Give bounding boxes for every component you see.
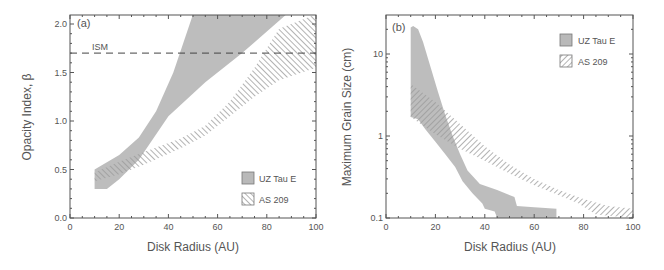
panel-b-legend: UZ Tau E AS 209	[560, 34, 615, 67]
x-tick-label: 80	[262, 222, 272, 232]
x-tick-label: 40	[163, 222, 173, 232]
legend-label-as-209: AS 209	[578, 57, 608, 67]
x-tick-label: 80	[579, 222, 589, 232]
x-tick-label: 40	[480, 222, 490, 232]
y-tick-label: 0.1	[370, 213, 383, 223]
panel-a-opacity-index: ISM 0204060801000.00.51.01.52.0 (a) Disk…	[20, 14, 324, 254]
legend-swatch-uz-tau-e	[242, 172, 254, 184]
x-tick-label: 60	[529, 222, 539, 232]
panel-b-y-axis-label: Maximum Grain Size (cm)	[340, 48, 354, 187]
y-tick-label: 1.5	[54, 68, 67, 78]
panel-b-max-grain-size: 0204060801000.1110 (b) Disk Radius (AU) …	[340, 15, 641, 254]
x-tick-label: 20	[430, 222, 440, 232]
ism-label: ISM	[92, 42, 108, 52]
x-tick-label: 60	[213, 222, 223, 232]
panel-b-data-areas	[411, 26, 633, 218]
panel-a-x-axis-label: Disk Radius (AU)	[147, 240, 239, 254]
x-tick-label: 0	[383, 222, 388, 232]
x-tick-label: 100	[308, 222, 323, 232]
legend-label-uz-tau-e: UZ Tau E	[578, 36, 615, 46]
x-tick-label: 20	[114, 222, 124, 232]
y-tick-label: 0.0	[54, 213, 67, 223]
legend-swatch-uz-tau-e	[560, 34, 572, 46]
legend-swatch-as-209	[242, 193, 254, 205]
legend-label-as-209: AS 209	[259, 195, 289, 205]
legend-swatch-as-209	[560, 55, 572, 67]
y-tick-label: 10	[373, 49, 383, 59]
y-tick-label: 1.0	[54, 116, 67, 126]
panel-a-legend: UZ Tau E AS 209	[242, 172, 296, 205]
x-tick-label: 100	[625, 222, 640, 232]
panel-a-label: (a)	[77, 17, 90, 29]
panel-a-y-axis-label: Opacity Index, β	[20, 73, 34, 160]
figure: ISM 0204060801000.00.51.01.52.0 (a) Disk…	[0, 0, 664, 270]
panel-b-x-axis-label: Disk Radius (AU)	[464, 240, 556, 254]
panel-b-label: (b)	[392, 21, 405, 33]
x-tick-label: 0	[67, 222, 72, 232]
legend-label-uz-tau-e: UZ Tau E	[259, 174, 296, 184]
panel-a-data-areas	[95, 14, 316, 189]
y-tick-label: 0.5	[54, 165, 67, 175]
y-tick-label: 1	[378, 131, 383, 141]
y-tick-label: 2.0	[54, 19, 67, 29]
